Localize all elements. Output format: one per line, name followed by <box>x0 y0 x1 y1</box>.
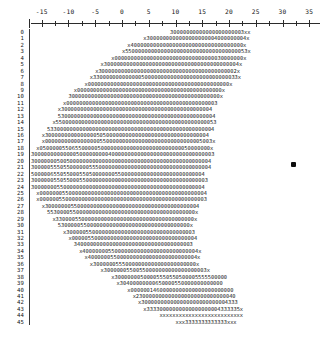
axis-tick-minor <box>109 21 110 26</box>
axis-tick-minor <box>82 21 83 26</box>
ascii-grid-body: 030000000000000000000003xx1x300000000000… <box>0 29 329 329</box>
axis-tick-minor <box>269 21 270 26</box>
axis-tick-label: 20 <box>225 8 233 16</box>
ascii-plot-root: -15-10-505101520253035 03000000000000000… <box>0 0 329 348</box>
axis-tick-major <box>68 20 69 27</box>
axis-tick-labels: -15-10-505101520253035 <box>0 8 329 19</box>
ascii-grid-row: 45xxx3333333333333xxx <box>0 319 329 325</box>
axis-tick-major <box>256 20 257 27</box>
row-cells: xxx3333333333333xxx <box>175 319 236 325</box>
axis-line <box>0 19 329 29</box>
top-axis: -15-10-505101520253035 <box>0 8 329 30</box>
axis-tick-major <box>202 20 203 27</box>
axis-tick-label: 0 <box>120 8 124 16</box>
axis-tick-major <box>229 20 230 27</box>
axis-tick-label: 15 <box>198 8 206 16</box>
cursor-marker[interactable] <box>291 162 296 167</box>
axis-tick-major <box>42 20 43 27</box>
axis-tick-major <box>149 20 150 27</box>
axis-tick-minor <box>242 21 243 26</box>
axis-tick-major <box>176 20 177 27</box>
axis-tick-major <box>95 20 96 27</box>
axis-tick-label: 5 <box>147 8 151 16</box>
axis-tick-minor <box>216 21 217 26</box>
axis-tick-label: -15 <box>36 8 48 16</box>
axis-tick-minor <box>296 21 297 26</box>
axis-tick-major <box>122 20 123 27</box>
axis-tick-label: 25 <box>252 8 260 16</box>
axis-tick-major <box>309 20 310 27</box>
axis-tick-minor <box>55 21 56 26</box>
axis-corner-glyph <box>29 19 30 28</box>
axis-tick-label: 35 <box>305 8 313 16</box>
axis-tick-minor <box>135 21 136 26</box>
axis-tick-major <box>283 20 284 27</box>
axis-tick-label: -5 <box>91 8 99 16</box>
row-label: 45 <box>8 319 24 325</box>
axis-tick-label: 10 <box>172 8 180 16</box>
axis-tick-minor <box>162 21 163 26</box>
axis-tick-label: -10 <box>63 8 75 16</box>
axis-tick-label: 30 <box>279 8 287 16</box>
row-separator-bar <box>29 319 30 325</box>
axis-tick-minor <box>189 21 190 26</box>
